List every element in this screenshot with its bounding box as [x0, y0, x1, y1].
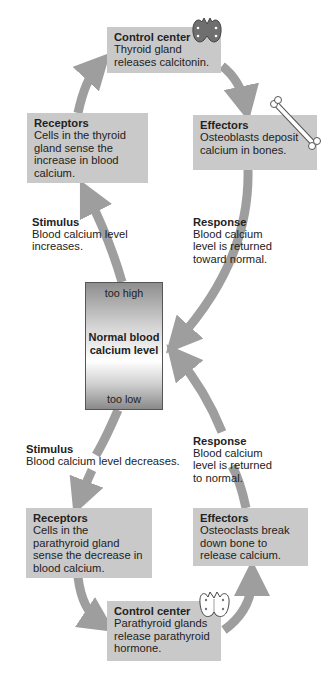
arrow-control-to-effectors-upper — [222, 66, 245, 104]
thyroid-gland-icon — [190, 14, 224, 48]
stimulus-text-upper: Blood calcium level increases. — [32, 228, 128, 252]
stimulus-label-upper: Stimulus Blood calcium level increases. — [32, 216, 132, 253]
arrow-receptors-to-control-lower — [78, 577, 100, 622]
arrow-receptors-to-control-upper — [78, 66, 98, 113]
effectors-text-lower: Osteoclasts break down bone to release c… — [200, 524, 290, 561]
receptors-box-lower: Receptors Cells in the parathyroid gland… — [26, 508, 152, 578]
receptors-title-lower: Receptors — [33, 512, 146, 524]
too-low-label: too low — [86, 393, 162, 405]
stimulus-label-lower: Stimulus Blood calcium level decreases. — [26, 443, 186, 467]
stimulus-title-upper: Stimulus — [32, 216, 132, 228]
receptors-text-lower: Cells in the parathyroid gland sense the… — [33, 524, 142, 573]
normal-calcium-level-box: too high Normal blood calcium level too … — [85, 282, 163, 410]
arrow-response-to-normal-lower — [178, 358, 222, 432]
bone-icon — [268, 96, 322, 152]
response-text-upper: Blood calcium level is returned toward n… — [193, 228, 272, 264]
stimulus-text-lower: Blood calcium level decreases. — [26, 455, 180, 467]
parathyroid-gland-icon — [197, 587, 233, 623]
receptors-box-upper: Receptors Cells in the thyroid gland sen… — [27, 113, 148, 183]
stimulus-title-lower: Stimulus — [26, 443, 186, 455]
too-high-label: too high — [86, 287, 162, 299]
normal-level-label: Normal blood calcium level — [86, 331, 162, 357]
control-center-text-lower: Parathyroid glands release parathyroid h… — [114, 617, 210, 654]
normal-level-line1: Normal blood — [86, 331, 162, 344]
arrow-stimulus-to-receptors-lower — [80, 470, 92, 498]
response-label-upper: Response Blood calcium level is returned… — [193, 216, 273, 265]
response-text-lower: Blood calcium level is returned to norma… — [193, 447, 272, 483]
normal-level-line2: calcium level — [86, 344, 162, 357]
response-title-upper: Response — [193, 216, 273, 228]
receptors-text-upper: Cells in the thyroid gland sense the inc… — [34, 129, 126, 178]
effectors-box-lower: Effectors Osteoclasts break down bone to… — [193, 508, 308, 566]
response-title-lower: Response — [193, 435, 273, 447]
effectors-title-lower: Effectors — [200, 512, 302, 524]
response-label-lower: Response Blood calcium level is returned… — [193, 435, 273, 484]
receptors-title-upper: Receptors — [34, 117, 142, 129]
